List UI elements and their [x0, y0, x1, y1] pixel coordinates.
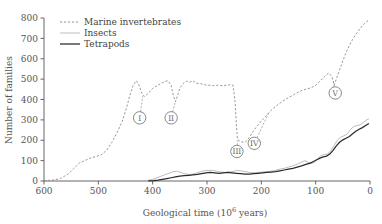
y-tick-label: 800 — [21, 13, 38, 23]
x-tick-label: 400 — [144, 186, 161, 196]
x-tick-label: 100 — [307, 186, 324, 196]
legend-label-tetrapods: Tetrapods — [84, 39, 130, 49]
marker-leader-line — [257, 113, 269, 138]
legend: Marine invertebratesInsectsTetrapods — [60, 17, 181, 49]
y-tick-label: 100 — [21, 156, 38, 166]
x-tick-label: 500 — [90, 186, 107, 196]
y-tick-label: 0 — [32, 176, 38, 186]
x-tick-label: 600 — [35, 186, 52, 196]
y-tick-label: 300 — [21, 115, 38, 125]
y-tick-label: 600 — [21, 54, 38, 64]
marker-label-II: II — [168, 114, 174, 123]
y-tick-label: 200 — [21, 135, 38, 145]
event-markers: IIIIIIIVV — [133, 80, 341, 158]
families-vs-geological-time-chart: 0100200300400500600700800600500400300200… — [0, 0, 382, 224]
x-axis-title: Geological time (106 years) — [143, 206, 267, 218]
x-tick-label: 0 — [367, 186, 373, 196]
y-axis-title: Number of families — [4, 56, 14, 144]
marker-label-IV: IV — [250, 139, 259, 148]
x-tick-label: 300 — [198, 186, 215, 196]
y-tick-label: 700 — [21, 34, 38, 44]
y-tick-label: 400 — [21, 95, 38, 105]
marker-leader-line — [141, 96, 143, 112]
marker-label-V: V — [332, 89, 339, 98]
chart-container: 0100200300400500600700800600500400300200… — [0, 0, 382, 224]
y-tick-label: 500 — [21, 74, 38, 84]
x-tick-label: 200 — [253, 186, 270, 196]
legend-label-insects: Insects — [84, 28, 117, 38]
marker-label-I: I — [138, 114, 141, 123]
marker-label-III: III — [232, 147, 241, 156]
marker-leader-line — [173, 101, 176, 112]
legend-label-marine-invertebrates: Marine invertebrates — [84, 17, 181, 27]
